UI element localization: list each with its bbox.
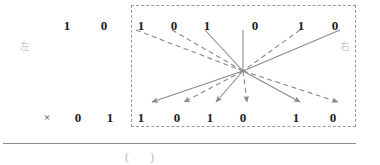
boxed-bottom-digit-0: 1 xyxy=(134,111,148,124)
boxed-top-digit-4: 1 xyxy=(294,19,308,32)
connector-c8 xyxy=(184,71,243,102)
boxed-top-digit-1: 0 xyxy=(167,19,181,32)
left-bottom-digit-1: 1 xyxy=(103,111,117,124)
worksheet-canvas: 左 1 0 × 0 1 右 101010 101010 ( ) xyxy=(0,0,380,165)
left-top-digit-0: 1 xyxy=(60,19,74,32)
boxed-top-digit-3: 0 xyxy=(248,19,262,32)
connector-arrows-layer xyxy=(0,0,380,165)
left-bottom-digit-0: 0 xyxy=(71,111,85,124)
multiplication-operator: × xyxy=(40,112,54,123)
boxed-bottom-digit-5: 0 xyxy=(326,111,340,124)
boxed-bottom-digit-3: 0 xyxy=(236,111,250,124)
footer-divider-rule xyxy=(3,143,356,144)
connector-c11 xyxy=(243,71,300,102)
connector-c1 xyxy=(136,30,243,71)
boxed-bottom-digit-1: 0 xyxy=(170,111,184,124)
connector-c2 xyxy=(172,30,243,71)
left-row-label: 左 xyxy=(15,42,35,52)
boxed-top-digit-0: 1 xyxy=(134,19,148,32)
boxed-bottom-digit-2: 1 xyxy=(203,111,217,124)
connector-c3 xyxy=(205,30,243,71)
connector-c10 xyxy=(243,71,247,102)
answer-parentheses: ( ) xyxy=(125,151,163,163)
boxed-top-digit-2: 1 xyxy=(200,19,214,32)
boxed-bottom-digit-4: 1 xyxy=(289,111,303,124)
right-panel-label: 右 xyxy=(335,42,355,52)
left-top-digit-1: 0 xyxy=(97,19,111,32)
boxed-top-digit-5: 0 xyxy=(328,19,342,32)
